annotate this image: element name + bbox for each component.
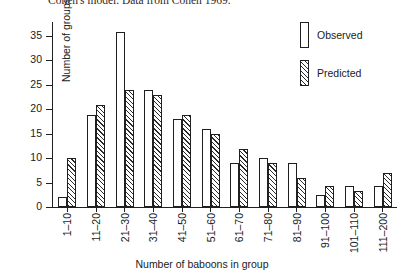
bar-predicted[interactable] [325, 186, 334, 207]
x-axis-tick [67, 207, 68, 212]
x-axis-tick [239, 207, 240, 212]
x-axis-label-cell: 91–100 [311, 213, 340, 253]
y-axis-tick-label: 25 [30, 78, 42, 91]
x-axis-tick [325, 207, 326, 212]
y-axis-tick-label: 20 [30, 102, 42, 115]
y-axis-tick-label: 0 [36, 200, 42, 213]
bar-group [82, 22, 111, 207]
bar-group [368, 22, 397, 207]
bar-observed[interactable] [316, 195, 325, 207]
legend-item[interactable]: Observed [300, 22, 363, 48]
x-axis-tick-label: 31–40 [148, 213, 159, 242]
x-axis-tick-labels: 1–1011–2021–3031–4041–5051–6061–7071–808… [53, 213, 397, 253]
chart-legend: ObservedPredicted [300, 22, 363, 98]
x-axis-label-cell: 61–70 [225, 213, 254, 253]
bar-observed[interactable] [173, 119, 182, 207]
x-axis-tick-label: 81–90 [291, 213, 302, 242]
bar-observed[interactable] [288, 163, 297, 207]
bar-observed[interactable] [230, 163, 239, 207]
x-axis-title: Number of baboons in group [0, 258, 404, 270]
x-axis-tick-label: 61–70 [234, 213, 245, 242]
bar-predicted[interactable] [67, 158, 76, 207]
x-axis-label-cell: 31–40 [139, 213, 168, 253]
x-axis-line [52, 207, 397, 208]
bar-group [53, 22, 82, 207]
bar-predicted[interactable] [125, 90, 134, 207]
x-axis-tick-label: 51–60 [205, 213, 216, 242]
y-axis-tick-label: 10 [30, 151, 42, 164]
bar-observed[interactable] [345, 186, 354, 207]
bar-group [168, 22, 197, 207]
bar-observed[interactable] [259, 158, 268, 207]
figure-caption: Cohen's model. Data from Cohen 1969. [48, 0, 378, 6]
x-axis-tick [96, 207, 97, 212]
x-axis-tick-label: 11–20 [91, 213, 102, 241]
bar-predicted[interactable] [354, 191, 363, 207]
x-axis-tick [124, 207, 125, 212]
x-axis-tick [210, 207, 211, 212]
bar-predicted[interactable] [239, 149, 248, 207]
bar-predicted[interactable] [96, 105, 105, 207]
bar-observed[interactable] [87, 115, 96, 208]
y-axis-tick: 35 [46, 36, 52, 37]
x-axis-tick-label: 41–50 [177, 213, 188, 242]
x-axis-label-cell: 1–10 [53, 213, 82, 253]
x-axis-tick-label: 71–80 [263, 213, 274, 242]
x-axis-tick [382, 207, 383, 212]
bar-predicted[interactable] [182, 115, 191, 208]
y-axis-tick-label: 30 [30, 53, 42, 66]
x-axis-tick-label: 91–100 [320, 213, 331, 248]
y-axis-tick: 10 [46, 158, 52, 159]
y-axis-tick: 0 [46, 207, 52, 208]
y-axis-tick: 5 [46, 183, 52, 184]
bar-predicted[interactable] [153, 95, 162, 207]
x-axis-tick-label: 21–30 [119, 213, 130, 242]
legend-swatch-observed [300, 22, 309, 48]
x-axis-label-cell: 111–200 [368, 213, 397, 253]
bar-group [110, 22, 139, 207]
x-axis-label-cell: 81–90 [282, 213, 311, 253]
x-axis-label-cell: 71–80 [254, 213, 283, 253]
x-axis-label-cell: 21–30 [110, 213, 139, 253]
x-axis-tick [182, 207, 183, 212]
bar-observed[interactable] [374, 186, 383, 207]
bar-group [225, 22, 254, 207]
x-axis-tick [296, 207, 297, 212]
legend-label: Observed [317, 29, 363, 41]
bar-observed[interactable] [116, 32, 125, 207]
y-axis-tick: 15 [46, 134, 52, 135]
bar-predicted[interactable] [297, 178, 306, 207]
y-axis-tick: 30 [46, 60, 52, 61]
bar-group [254, 22, 283, 207]
bar-observed[interactable] [202, 129, 211, 207]
x-axis-tick [354, 207, 355, 212]
x-axis-label-cell: 101–110 [340, 213, 369, 253]
bar-predicted[interactable] [211, 134, 220, 207]
y-axis-tick-label: 35 [30, 29, 42, 42]
bar-group [139, 22, 168, 207]
x-axis-label-cell: 11–20 [82, 213, 111, 253]
x-axis-label-cell: 51–60 [196, 213, 225, 253]
x-axis-tick [153, 207, 154, 212]
bar-observed[interactable] [144, 90, 153, 207]
bar-observed[interactable] [58, 197, 67, 207]
x-axis-label-cell: 41–50 [168, 213, 197, 253]
bar-predicted[interactable] [383, 173, 392, 207]
x-axis-tick [268, 207, 269, 212]
y-axis-tick: 25 [46, 85, 52, 86]
x-axis-tick-label: 101–110 [349, 213, 360, 253]
x-axis-tick-label: 111–200 [377, 213, 388, 252]
legend-swatch-predicted [300, 60, 309, 86]
legend-item[interactable]: Predicted [300, 60, 363, 86]
x-axis-tick-label: 1–10 [62, 213, 73, 236]
bar-group [196, 22, 225, 207]
bar-predicted[interactable] [268, 163, 277, 207]
y-axis-tick-label: 5 [36, 176, 42, 189]
y-axis-tick: 20 [46, 109, 52, 110]
y-axis-tick-label: 15 [30, 127, 42, 140]
legend-label: Predicted [317, 67, 361, 79]
